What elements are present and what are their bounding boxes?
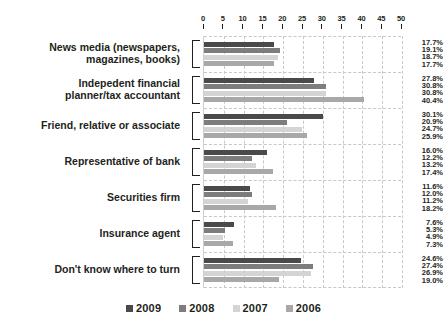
x-axis: 05101520253035404550 [203,14,401,36]
category-label-line: News media (newspapers, [0,41,180,54]
value-label-group: 17.7%19.1%18.7%17.7% [404,39,447,67]
category-bracket [192,220,200,248]
category-bracket [192,256,200,284]
bar-2006 [204,61,274,66]
legend-item-2006[interactable]: 2006 [286,302,321,314]
bar-2007 [204,199,248,204]
value-label-group: 16.0%12.2%13.2%17.4% [404,147,447,175]
x-tick-mark [242,24,243,29]
bar-2009 [204,114,323,119]
category-label: Friend, relative or associate [0,119,180,132]
category-label-line: Insurance agent [0,227,180,240]
value-label-group: 11.6%12.0%11.2%18.2% [404,183,447,211]
bar-2009 [204,42,274,47]
legend-label: 2009 [136,302,161,314]
value-label-2006: 19.0% [404,277,447,284]
category-label-line: planner/tax accountant [0,89,180,102]
category-label: Representative of bank [0,155,180,168]
category-label-line: Representative of bank [0,155,180,168]
value-label-group: 27.8%30.8%30.8%40.4% [404,75,447,103]
category-bracket [192,184,200,212]
bar-group [204,252,401,288]
x-tick-mark [222,24,223,29]
value-label-group: 7.6%5.3%4.9%7.3% [404,219,447,247]
category-label: Securities firm [0,191,180,204]
gridline [402,36,403,288]
x-tick-mark [401,24,402,29]
x-tick-label: 50 [389,14,413,23]
bar-2006 [204,277,279,282]
value-label-2006: 17.7% [404,61,447,68]
x-tick-mark [381,24,382,29]
value-label-2006: 17.4% [404,169,447,176]
value-label-2006: 25.9% [404,133,447,140]
bar-2006 [204,133,307,138]
x-tick-mark [341,24,342,29]
category-axis-labels: News media (newspapers,magazines, books)… [0,36,190,288]
bar-2009 [204,186,250,191]
legend-item-2007[interactable]: 2007 [233,302,268,314]
bar-group [204,180,401,216]
legend-swatch-icon [126,305,133,312]
bar-group [204,216,401,252]
x-tick-mark [361,24,362,29]
category-label: News media (newspapers,magazines, books) [0,41,180,66]
category-label-line: Don't know where to turn [0,263,180,276]
category-bracket [192,76,200,104]
legend-item-2009[interactable]: 2009 [126,302,161,314]
bar-2008 [204,84,326,89]
legend-swatch-icon [179,305,186,312]
value-labels: 17.7%19.1%18.7%17.7%27.8%30.8%30.8%40.4%… [404,36,447,288]
legend-swatch-icon [286,305,293,312]
legend-label: 2006 [296,302,321,314]
bar-2006 [204,97,364,102]
category-label: Don't know where to turn [0,263,180,276]
value-label-2006: 7.3% [404,241,447,248]
bar-2008 [204,120,287,125]
bar-2009 [204,150,267,155]
category-label-line: Friend, relative or associate [0,119,180,132]
bar-2007 [204,163,256,168]
bar-2007 [204,271,311,276]
bar-2007 [204,127,302,132]
bar-2008 [204,264,313,269]
bar-2008 [204,228,225,233]
x-tick-50: 50 [389,14,413,29]
legend-label: 2007 [243,302,268,314]
category-label-line: Securities firm [0,191,180,204]
x-tick-mark [302,24,303,29]
bar-group [204,72,401,108]
category-label-line: magazines, books) [0,53,180,66]
bar-2006 [204,205,276,210]
bar-2009 [204,222,234,227]
bar-2008 [204,156,252,161]
category-bracket [192,40,200,68]
bar-2009 [204,258,301,263]
bar-2006 [204,241,233,246]
category-brackets [192,36,201,288]
value-label-2006: 40.4% [404,97,447,104]
bar-chart: 05101520253035404550 News media (newspap… [0,0,447,335]
category-label: Insurance agent [0,227,180,240]
bar-group [204,108,401,144]
value-label-group: 30.1%20.9%24.7%25.9% [404,111,447,139]
legend-item-2008[interactable]: 2008 [179,302,214,314]
bar-2009 [204,78,314,83]
bar-group [204,36,401,72]
category-label-line: Indepedent financial [0,77,180,90]
x-tick-mark [203,24,204,29]
legend-swatch-icon [233,305,240,312]
plot-area [203,36,401,288]
value-label-2006: 18.2% [404,205,447,212]
legend-label: 2008 [189,302,214,314]
bar-2006 [204,169,273,174]
x-tick-mark [282,24,283,29]
category-bracket [192,112,200,140]
bar-2007 [204,235,223,240]
chart-legend: 2009200820072006 [0,302,447,314]
bar-2008 [204,192,252,197]
category-label: Indepedent financialplanner/tax accounta… [0,77,180,102]
category-bracket [192,148,200,176]
value-label-group: 24.6%27.4%26.9%19.0% [404,255,447,283]
bar-2008 [204,48,280,53]
